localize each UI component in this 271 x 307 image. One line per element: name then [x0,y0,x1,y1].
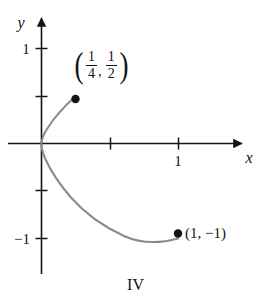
coordinate-plot: y x 1 −1 1 [0,0,271,307]
y-tick-label-negative-one: −1 [14,231,30,247]
marker-point-lower [174,229,182,237]
fraction-y-denominator: 2 [106,67,117,81]
label-comma: , [98,64,102,82]
figure-caption: IV [0,276,271,294]
fraction-y: 1 2 [106,50,117,82]
parabola-curve [41,96,178,242]
x-tick-label-one: 1 [174,153,182,169]
point-label-upper: ( 1 4 , 1 2 ) [73,50,130,82]
y-axis-label: y [15,14,25,32]
fraction-x: 1 4 [86,50,97,82]
fraction-y-numerator: 1 [106,50,117,64]
marker-point-upper [71,95,79,103]
fraction-x-numerator: 1 [86,50,97,64]
fraction-x-denominator: 4 [86,67,97,81]
open-paren: ( [75,50,84,81]
y-tick-label-one: 1 [22,41,30,57]
close-paren: ) [119,50,128,81]
point-label-lower: (1, −1) [185,226,226,241]
x-axis-label: x [244,149,252,166]
figure-container: y x 1 −1 1 ( 1 4 , 1 2 ) (1, −1) IV [0,0,271,307]
